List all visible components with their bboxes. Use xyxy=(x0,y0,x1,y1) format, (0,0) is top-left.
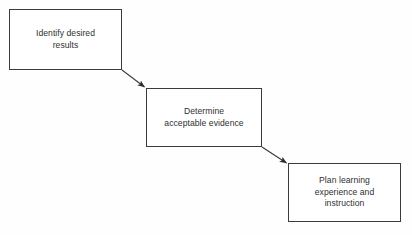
process-box-identify-desired-results[interactable]: Identify desired results xyxy=(9,9,122,70)
process-box-label: Plan learning experience and instruction xyxy=(310,175,379,209)
diagram-canvas: Identify desired results Determine accep… xyxy=(0,0,412,235)
process-box-label: Identify desired results xyxy=(31,28,100,51)
process-box-determine-acceptable-evidence[interactable]: Determine acceptable evidence xyxy=(146,88,262,147)
connector-determine-to-plan xyxy=(262,147,287,163)
connector-identify-to-determine xyxy=(122,70,145,87)
process-box-plan-learning-experience[interactable]: Plan learning experience and instruction xyxy=(288,163,401,222)
process-box-label: Determine acceptable evidence xyxy=(159,106,248,129)
